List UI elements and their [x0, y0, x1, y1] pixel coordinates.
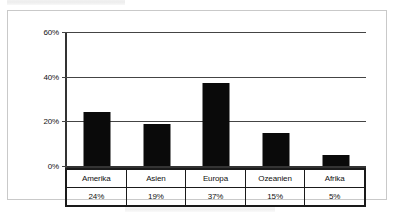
plot-area: 60% 40% 20% 0%: [65, 32, 366, 168]
bar-series: [67, 32, 366, 166]
table-cell-value-amerika: 24%: [67, 188, 127, 206]
table-cell-value-afrika: 5%: [305, 188, 365, 206]
bar-afrika: [323, 155, 350, 166]
table-row-categories: Amerika Asien Europa Ozeanien Afrika: [67, 170, 365, 188]
y-axis-label-60: 60%: [44, 28, 59, 37]
table-cell-value-ozeanien: 15%: [245, 188, 305, 206]
bar-cell-amerika: [67, 32, 127, 166]
bar-chart: 60% 40% 20% 0%: [65, 32, 366, 168]
scan-artifact-bottom: [125, 207, 275, 212]
bar-asien: [143, 124, 170, 166]
y-axis-label-0: 0%: [48, 162, 59, 171]
table-cell-category-europa: Europa: [186, 170, 246, 188]
bar-amerika: [83, 112, 110, 166]
bar-cell-afrika: [306, 32, 366, 166]
table-cell-value-asien: 19%: [126, 188, 186, 206]
bar-cell-europa: [187, 32, 247, 166]
chart-frame: 60% 40% 20% 0%: [7, 10, 387, 200]
table-cell-category-afrika: Afrika: [305, 170, 365, 188]
bar-ozeanien: [263, 133, 290, 167]
bar-cell-asien: [127, 32, 187, 166]
y-axis-label-40: 40%: [44, 72, 59, 81]
bar-europa: [203, 83, 230, 166]
table-cell-category-ozeanien: Ozeanien: [245, 170, 305, 188]
table-cell-category-asien: Asien: [126, 170, 186, 188]
tick-0: [62, 166, 67, 167]
scan-artifact-top: [7, 0, 125, 5]
data-table: Amerika Asien Europa Ozeanien Afrika 24%…: [65, 168, 366, 207]
y-axis-label-20: 20%: [44, 117, 59, 126]
table-row-values: 24% 19% 37% 15% 5%: [67, 188, 365, 206]
bar-cell-ozeanien: [246, 32, 306, 166]
table-cell-category-amerika: Amerika: [67, 170, 127, 188]
table-cell-value-europa: 37%: [186, 188, 246, 206]
